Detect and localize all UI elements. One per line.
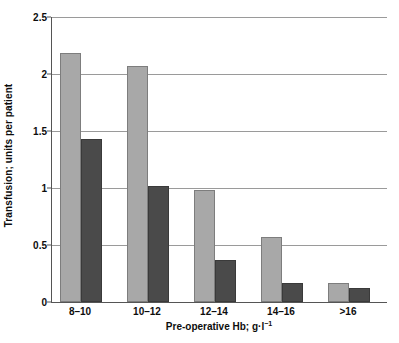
- bar-dark-grey-series-2: [215, 260, 236, 302]
- x-axis-tick-label: 8–10: [69, 306, 91, 317]
- bar-dark-grey-series-3: [282, 283, 303, 302]
- y-axis-tick-label: 1.5: [33, 126, 47, 137]
- bar-dark-grey-series-4: [349, 288, 370, 302]
- bar-light-grey-series-3: [261, 237, 282, 302]
- bar-light-grey-series-0: [60, 53, 81, 302]
- bars-layer: [52, 17, 387, 302]
- y-axis-tick-label: 2.5: [33, 12, 47, 23]
- x-axis-tick-labels: 8–1010–1212–1414–16>16: [51, 303, 387, 321]
- x-axis-title: Pre-operative Hb; g·l−1: [51, 320, 387, 332]
- x-axis-tick-label: 14–16: [267, 306, 295, 317]
- bar-dark-grey-series-0: [81, 139, 102, 302]
- y-axis-title: Transfusion; units per patient: [0, 0, 18, 310]
- x-axis-tick-label: 10–12: [133, 306, 161, 317]
- y-axis-tick-label: 0.5: [33, 240, 47, 251]
- plot-area: [51, 17, 387, 303]
- x-axis-tick-label: 12–14: [200, 306, 228, 317]
- bar-chart-figure: Transfusion; units per patient 00.511.52…: [0, 0, 399, 343]
- bar-light-grey-series-2: [194, 190, 215, 302]
- bar-light-grey-series-1: [127, 66, 148, 302]
- bar-dark-grey-series-1: [148, 186, 169, 302]
- x-axis-title-text: Pre-operative Hb; g·l−1: [166, 321, 272, 332]
- y-axis-title-text: Transfusion; units per patient: [4, 83, 15, 227]
- bar-light-grey-series-4: [328, 283, 349, 302]
- y-axis-tick-labels: 00.511.522.5: [18, 0, 51, 343]
- x-axis-tick-label: >16: [340, 306, 357, 317]
